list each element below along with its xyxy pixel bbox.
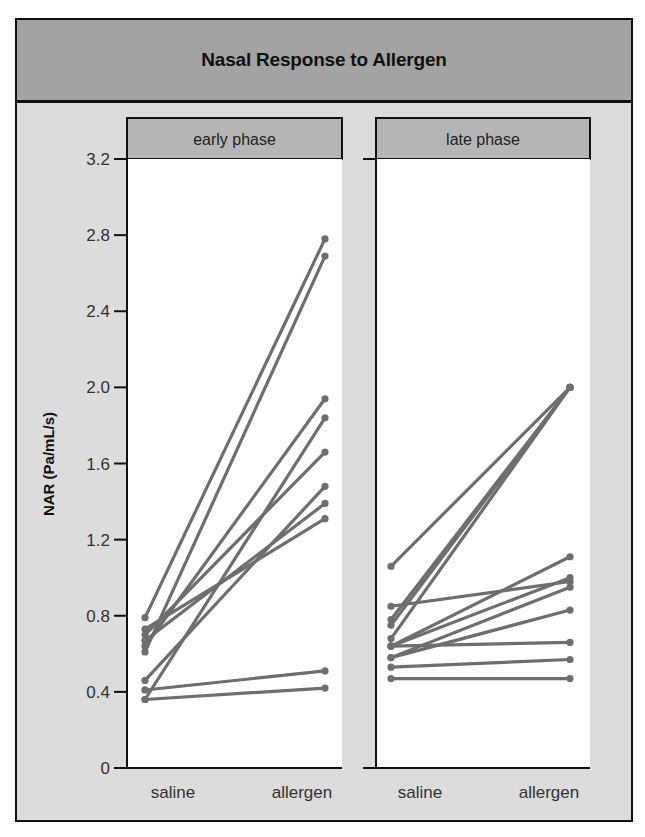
data-point — [387, 643, 394, 650]
data-point — [321, 235, 328, 242]
y-tick-label: 3.2 — [86, 150, 110, 169]
x-category-allergen-late: allergen — [519, 783, 580, 802]
strip-label-early: early phase — [193, 131, 276, 148]
data-point — [566, 606, 573, 613]
data-point — [321, 515, 328, 522]
plot-area-late — [376, 159, 590, 768]
x-category-allergen-early: allergen — [272, 783, 333, 802]
chart-plot: NAR (Pa/mL/s) early phase saline allerge… — [0, 0, 645, 837]
data-point — [321, 414, 328, 421]
y-tick-label: 2.0 — [86, 378, 110, 397]
data-point — [321, 500, 328, 507]
panel-late-phase: late phase saline allergen — [363, 118, 590, 802]
panel-early-phase: early phase saline allergen — [114, 118, 342, 802]
data-point — [321, 252, 328, 259]
y-tick-label: 0 — [101, 759, 110, 778]
data-point — [566, 656, 573, 663]
x-category-saline-late: saline — [398, 783, 442, 802]
data-point — [321, 667, 328, 674]
data-point — [566, 384, 573, 391]
x-category-saline-early: saline — [151, 783, 195, 802]
data-point — [387, 635, 394, 642]
y-tick-label: 0.4 — [86, 683, 110, 702]
data-point — [387, 654, 394, 661]
data-point — [387, 616, 394, 623]
data-point — [141, 614, 148, 621]
y-axis-label: NAR (Pa/mL/s) — [40, 412, 57, 516]
data-point — [321, 395, 328, 402]
y-axis-ticks: 00.40.81.21.62.02.42.83.2 — [86, 150, 127, 778]
data-point — [387, 675, 394, 682]
y-tick-label: 2.4 — [86, 302, 110, 321]
y-tick-label: 2.8 — [86, 226, 110, 245]
data-point — [387, 563, 394, 570]
strip-label-late: late phase — [446, 131, 520, 148]
data-point — [321, 448, 328, 455]
data-point — [141, 686, 148, 693]
data-point — [566, 574, 573, 581]
data-point — [141, 625, 148, 632]
data-point — [387, 603, 394, 610]
data-point — [321, 483, 328, 490]
data-point — [321, 684, 328, 691]
data-point — [566, 553, 573, 560]
y-tick-label: 1.6 — [86, 455, 110, 474]
data-point — [566, 639, 573, 646]
data-point — [387, 664, 394, 671]
y-tick-label: 0.8 — [86, 607, 110, 626]
data-point — [141, 677, 148, 684]
data-point — [566, 584, 573, 591]
data-point — [141, 696, 148, 703]
data-point — [141, 637, 148, 644]
data-point — [566, 675, 573, 682]
y-tick-label: 1.2 — [86, 531, 110, 550]
